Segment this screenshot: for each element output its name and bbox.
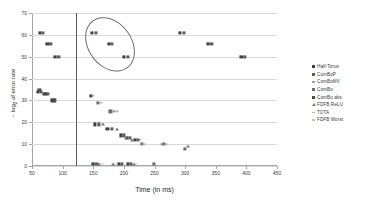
data-point <box>115 127 119 130</box>
y-tick <box>29 13 32 14</box>
data-point <box>100 102 103 103</box>
data-point <box>120 162 123 165</box>
data-point <box>44 92 47 95</box>
y-tick <box>29 79 32 80</box>
data-point <box>111 42 114 45</box>
data-point <box>122 55 125 58</box>
y-axis-title-subscript: 2 <box>13 102 18 105</box>
y-tick-label: 20 <box>21 119 27 125</box>
y-tick <box>29 144 32 145</box>
data-point <box>38 88 41 91</box>
data-point <box>182 31 185 34</box>
legend-label: ComBoMV <box>317 79 340 84</box>
x-tick <box>63 166 64 169</box>
chart-legend: Half-TorusComBoPComBoMVComBoComBo absFDF… <box>310 63 370 124</box>
legend-item[interactable]: ComBoP <box>310 71 370 79</box>
legend-item[interactable]: ComBo <box>310 86 370 94</box>
data-point <box>243 55 246 58</box>
x-tick-label: 150 <box>89 170 97 176</box>
data-point <box>152 162 155 165</box>
gridline <box>32 122 277 123</box>
data-point <box>97 123 100 126</box>
data-point <box>110 127 113 130</box>
legend-label: ComBoP <box>317 72 336 77</box>
legend-item[interactable]: ComBo abs <box>310 93 370 101</box>
y-axis-title-rest: of error rate <box>10 69 16 102</box>
data-point <box>130 138 134 141</box>
legend-label: Half-Torus <box>317 64 339 69</box>
legend-label: TOTA <box>317 110 329 115</box>
y-tick-label: 60 <box>21 32 27 38</box>
data-point <box>94 31 97 34</box>
x-tick-label: 250 <box>150 170 158 176</box>
x-axis-title: Time (in ms) <box>32 186 277 193</box>
gridline <box>32 13 277 14</box>
threshold-reference-line <box>76 13 77 166</box>
x-tick <box>216 166 217 169</box>
data-point <box>186 145 190 148</box>
x-tick <box>277 166 278 169</box>
legend-label: ComBo <box>317 87 333 92</box>
legend-item[interactable]: FDFB ReLU <box>310 101 370 109</box>
x-tick-label: 200 <box>120 170 128 176</box>
data-point <box>138 139 141 140</box>
legend-item[interactable]: ComBoMV <box>310 78 370 86</box>
legend-label: ComBo abs <box>317 95 342 100</box>
x-tick-label: 50 <box>29 170 35 176</box>
gridline <box>32 144 277 145</box>
legend-label: FDFB Worst <box>317 117 343 122</box>
legend-item[interactable]: FDFB Worst <box>310 116 370 124</box>
data-point <box>164 143 167 144</box>
legend-marker-icon <box>310 81 317 82</box>
x-tick <box>155 166 156 169</box>
legend-marker-icon <box>310 73 317 76</box>
x-tick <box>246 166 247 169</box>
data-point <box>106 127 109 130</box>
y-tick <box>29 57 32 58</box>
y-tick <box>29 35 32 36</box>
data-point <box>101 123 105 126</box>
y-tick-label: 70 <box>21 10 27 16</box>
gridline <box>32 100 277 101</box>
x-tick <box>93 166 94 169</box>
scatter-chart: 010203040506070 501001502002503003504004… <box>0 0 371 206</box>
x-tick-label: 300 <box>181 170 189 176</box>
gridline <box>32 79 277 80</box>
x-tick <box>124 166 125 169</box>
gridline <box>32 35 277 36</box>
data-point <box>210 42 213 45</box>
data-point <box>52 99 55 102</box>
data-point <box>124 136 128 139</box>
x-tick <box>185 166 186 169</box>
y-tick-label: 0 <box>24 163 27 169</box>
x-tick-label: 400 <box>242 170 250 176</box>
data-point <box>143 143 146 144</box>
data-point <box>127 55 130 58</box>
legend-item[interactable]: TOTA <box>310 109 370 117</box>
x-tick-label: 450 <box>273 170 281 176</box>
legend-marker-icon <box>310 119 317 120</box>
legend-marker-icon <box>310 103 317 106</box>
data-point <box>135 163 138 164</box>
y-axis-line <box>32 13 33 166</box>
x-tick-label: 100 <box>58 170 66 176</box>
y-tick-label: 10 <box>21 141 27 147</box>
plot-area: 010203040506070 501001502002503003504004… <box>32 13 277 166</box>
legend-item[interactable]: Half-Torus <box>310 63 370 71</box>
y-tick <box>29 122 32 123</box>
data-point <box>115 111 118 112</box>
legend-marker-icon <box>310 112 317 113</box>
x-tick-label: 350 <box>212 170 220 176</box>
data-point <box>109 110 112 113</box>
y-tick-label: 40 <box>21 76 27 82</box>
y-tick-label: 50 <box>21 54 27 60</box>
data-point <box>100 163 103 164</box>
data-point <box>96 101 99 104</box>
legend-marker-icon <box>310 65 317 68</box>
y-tick <box>29 100 32 101</box>
data-point <box>41 31 44 34</box>
x-tick <box>32 166 33 169</box>
legend-label: FDFB ReLU <box>317 102 343 107</box>
y-axis-title: − log2 of error rate <box>10 53 18 133</box>
data-point <box>114 163 117 164</box>
